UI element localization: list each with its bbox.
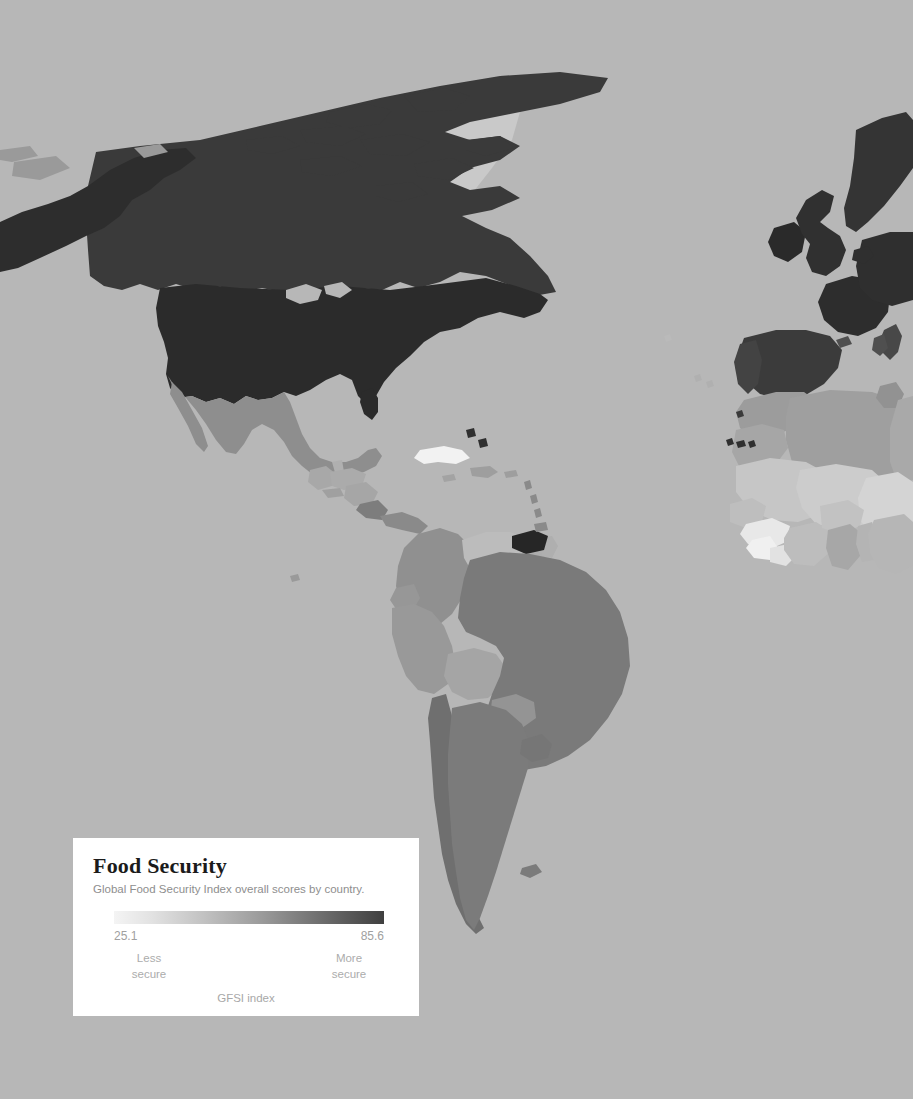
legend-color-gradient-bar[interactable] xyxy=(114,911,384,924)
legend-more-secure-line2: secure xyxy=(314,966,384,983)
legend-endpoint-labels: Less secure More secure xyxy=(114,950,384,983)
legend-more-secure-label: More secure xyxy=(314,950,384,983)
legend-tick-labels: 25.1 85.6 xyxy=(114,929,384,943)
legend-max-value: 85.6 xyxy=(361,929,384,943)
legend-gradient-row: 25.1 85.6 xyxy=(114,911,378,943)
legend-less-secure-line1: Less xyxy=(114,950,184,967)
legend-subtitle: Global Food Security Index overall score… xyxy=(93,882,399,896)
legend-axis-caption: GFSI index xyxy=(93,992,399,1004)
legend-more-secure-line1: More xyxy=(314,950,384,967)
legend-less-secure-line2: secure xyxy=(114,966,184,983)
legend-min-value: 25.1 xyxy=(114,929,137,943)
legend-panel: Food Security Global Food Security Index… xyxy=(73,838,419,1016)
map-screenshot: Food Security Global Food Security Index… xyxy=(0,0,913,1099)
legend-title: Food Security xyxy=(93,854,399,878)
legend-less-secure-label: Less secure xyxy=(114,950,184,983)
